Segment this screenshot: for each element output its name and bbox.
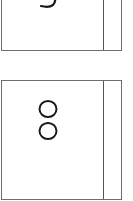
digit-three-glyph-icon [39, 0, 59, 10]
digit-eight-glyph-icon [38, 98, 58, 142]
tile-face [2, 81, 103, 199]
tile-divider [103, 0, 104, 50]
tile-bottom[interactable] [1, 80, 122, 200]
tile-divider [103, 81, 104, 199]
tile-face [2, 0, 103, 50]
tile-top[interactable] [1, 0, 122, 51]
